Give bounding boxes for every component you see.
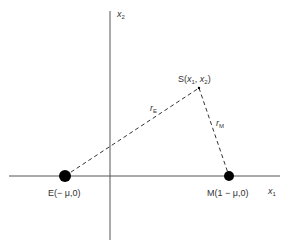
diagram-canvas: x2 x1 S(x1, x2) rE rM E(− μ,0) M(1 − μ,0… [0, 0, 289, 246]
moon-label: M(1 − μ,0) [207, 188, 248, 198]
r-e-line [65, 88, 199, 176]
r-m-line [199, 88, 229, 176]
x1-axis-label: x1 [267, 186, 277, 197]
earth-marker [59, 170, 71, 182]
earth-label: E(− μ,0) [48, 188, 80, 198]
satellite-marker [198, 87, 200, 89]
r-m-label: rM [216, 118, 224, 129]
satellite-label: S(x1, x2) [178, 74, 211, 85]
moon-marker [224, 171, 234, 181]
x2-axis-label: x2 [116, 9, 126, 20]
r-e-label: rE [150, 103, 157, 114]
